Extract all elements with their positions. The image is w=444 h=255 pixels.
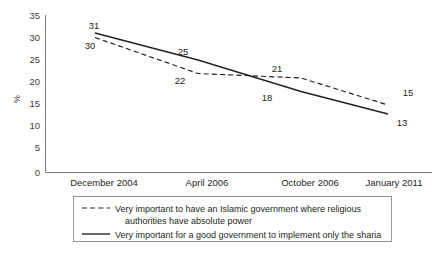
y-tick-label-5: 5 [35, 142, 40, 153]
data-label-dashed-2: 21 [272, 63, 283, 74]
y-tick-label-25: 25 [29, 54, 40, 65]
data-label-dashed-1: 22 [175, 75, 186, 86]
line-chart: 35 30 25 20 15 10 5 0 % December 2004 Ap… [0, 0, 444, 255]
x-tick-label-1: April 2006 [186, 177, 229, 188]
series-line-islamic-government [95, 38, 388, 106]
data-label-solid-2: 18 [262, 92, 273, 103]
chart-canvas: 35 30 25 20 15 10 5 0 % December 2004 Ap… [0, 0, 444, 255]
y-tick-label-20: 20 [29, 76, 40, 87]
data-label-dashed-0: 30 [85, 40, 96, 51]
y-axis-title: % [12, 95, 22, 103]
data-label-dashed-3: 15 [403, 87, 414, 98]
x-tick-label-3: January 2011 [366, 177, 423, 188]
y-tick-label-30: 30 [29, 32, 40, 43]
data-label-solid-0: 31 [89, 20, 100, 31]
data-label-solid-3: 13 [397, 117, 408, 128]
x-tick-label-0: December 2004 [70, 177, 138, 188]
legend-label-1-line-1: Very important to have an Islamic govern… [115, 204, 362, 214]
y-tick-label-15: 15 [29, 98, 40, 109]
y-tick-label-0: 0 [35, 167, 40, 178]
x-tick-label-2: October 2006 [281, 177, 339, 188]
data-label-solid-1: 25 [178, 46, 189, 57]
y-tick-label-10: 10 [29, 120, 40, 131]
series-line-sharia [95, 33, 388, 114]
legend-label-2-line-1: Very important for a good government to … [115, 230, 381, 240]
legend-label-1-line-2: authorities have absolute power [125, 216, 252, 226]
y-tick-label-35: 35 [29, 10, 40, 21]
